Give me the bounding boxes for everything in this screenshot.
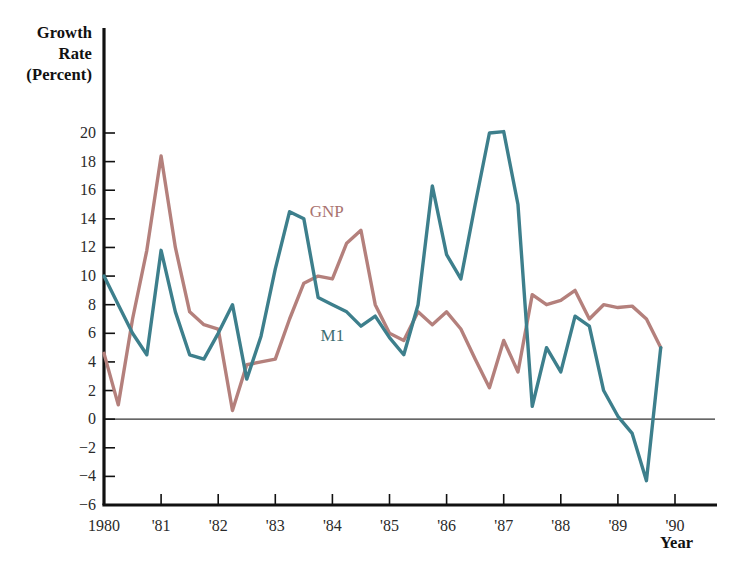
data-line-gnp bbox=[104, 156, 661, 411]
chart-figure: Growth Rate (Percent) 20181614121086420−… bbox=[0, 0, 741, 588]
plot-area bbox=[0, 0, 741, 588]
